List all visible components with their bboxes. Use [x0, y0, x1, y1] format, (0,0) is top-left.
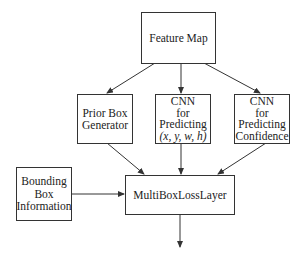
node-cnn-predicting-xywh: CNN for Predicting (x, y, w, h): [155, 94, 211, 144]
node-label-line: Prior Box: [82, 107, 127, 120]
edge-priorbox-loss: [107, 143, 144, 174]
node-prior-box-generator: Prior Box Generator: [77, 94, 133, 144]
node-label: Feature Map: [149, 32, 207, 45]
node-multibox-loss-layer: MultiBoxLossLayer: [125, 175, 235, 215]
node-cnn-predicting-confidence: CNN for Predicting Confidence: [234, 94, 290, 144]
edge-featuremap-priorbox: [107, 63, 155, 93]
node-label-line: CNN: [250, 96, 274, 108]
node-label-line: CNN: [171, 96, 195, 108]
node-label-line: Box: [34, 188, 53, 201]
node-label-line: Predicting: [159, 119, 206, 131]
node-label-line: Predicting: [238, 119, 285, 131]
edge-featuremap-cnn-conf: [204, 63, 260, 93]
node-label-line: Information: [17, 200, 72, 213]
node-label-line: (x, y, w, h): [159, 131, 206, 143]
node-label-line: Bounding: [21, 175, 66, 188]
edge-cnn-conf-loss: [218, 143, 266, 174]
node-bounding-box-information: Bounding Box Information: [16, 167, 72, 221]
node-feature-map: Feature Map: [141, 12, 216, 64]
node-label: MultiBoxLossLayer: [133, 189, 226, 202]
node-label-line: Confidence: [235, 131, 288, 143]
node-label-line: Generator: [82, 119, 128, 132]
